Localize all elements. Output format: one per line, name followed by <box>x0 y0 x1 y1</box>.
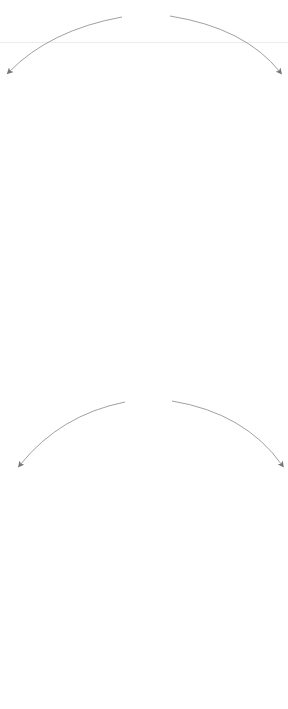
feather-fan-bottom <box>0 420 288 709</box>
feather-fan-top <box>0 40 288 370</box>
